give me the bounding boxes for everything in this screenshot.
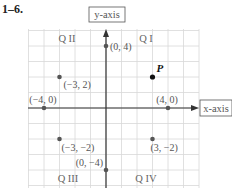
point-marker xyxy=(104,44,109,49)
point-label: (4, 0) xyxy=(156,94,178,106)
point-label: (3, −2) xyxy=(151,142,178,154)
point-label: (0, −4) xyxy=(76,157,103,169)
quadrant-label-q2: Q II xyxy=(58,33,76,44)
x-axis-label-box: x-axis xyxy=(200,100,232,116)
point-label: (0, 4) xyxy=(110,41,132,53)
coordinate-plane: y-axis x-axis Q II Q I Q III Q IV (0, 4)… xyxy=(0,0,232,194)
x-axis-label: x-axis xyxy=(203,103,229,114)
quadrant-label-q1: Q I xyxy=(139,33,153,44)
quadrant-label-q3: Q III xyxy=(58,173,79,184)
point-0-4: (0, 4) xyxy=(104,41,132,53)
point-marker xyxy=(57,75,62,80)
points: (0, 4)(−3, 2)(−4, 0)(4, 0)(−3, −2)(3, −2… xyxy=(29,41,177,172)
point-marker xyxy=(150,137,155,142)
x-axis-arrow-icon xyxy=(191,105,199,111)
point-label: (−3, 2) xyxy=(64,79,91,91)
point-label: (−3, −2) xyxy=(62,142,95,154)
y-axis-label: y-axis xyxy=(94,9,120,20)
point-label: P xyxy=(157,62,164,74)
point-marker xyxy=(166,106,171,111)
point-marker xyxy=(104,168,109,173)
quadrant-label-q4: Q IV xyxy=(135,173,157,184)
point-marker xyxy=(57,137,62,142)
point-marker xyxy=(42,106,47,111)
axes xyxy=(28,29,199,188)
y-axis-label-box: y-axis xyxy=(89,7,125,22)
point-marker xyxy=(150,74,155,79)
point-label: (−4, 0) xyxy=(29,94,56,106)
